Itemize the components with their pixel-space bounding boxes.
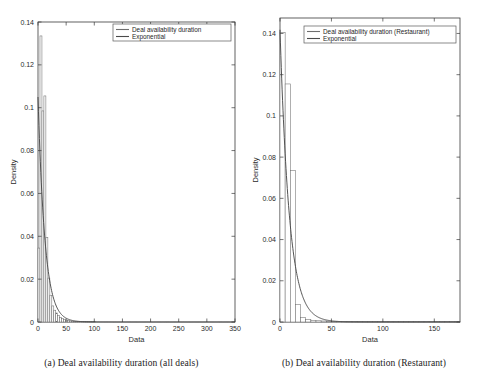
legend-label: Exponential — [132, 33, 165, 41]
plot-b-wrapper: 05010015000.020.040.060.080.10.120.14Dat… — [243, 0, 485, 355]
caption-b: (b) Deal availability duration (Restaura… — [243, 358, 485, 368]
chart-a: 05010015020025030035000.020.040.060.080.… — [0, 0, 243, 355]
y-tick-label: 0.02 — [262, 277, 276, 284]
histogram-bar — [73, 321, 75, 322]
caption-a: (a) Deal availability duration (all deal… — [0, 358, 243, 368]
x-tick-label: 100 — [88, 325, 100, 332]
y-tick-label: 0.14 — [262, 30, 276, 37]
y-tick-label: 0.04 — [20, 233, 34, 240]
x-tick-label: 0 — [278, 325, 282, 332]
plot-a-wrapper: 05010015020025030035000.020.040.060.080.… — [0, 0, 243, 355]
chart-b: 05010015000.020.040.060.080.10.120.14Dat… — [243, 0, 485, 355]
x-tick-label: 300 — [201, 325, 213, 332]
histogram-bar — [38, 248, 40, 322]
y-tick-label: 0.1 — [266, 112, 276, 119]
y-axis-title: Density — [251, 157, 260, 182]
legend: Deal availability duration (Restaurant)E… — [304, 26, 456, 43]
histogram-bar — [295, 304, 300, 322]
histogram-bar — [60, 317, 62, 322]
x-tick-label: 50 — [62, 325, 70, 332]
panel-b: 05010015000.020.040.060.080.10.120.14Dat… — [243, 0, 485, 392]
axis-frame — [38, 22, 235, 322]
y-tick-label: 0.06 — [262, 195, 276, 202]
histogram-bar — [56, 313, 58, 322]
histogram-bar — [71, 321, 73, 322]
y-tick-label: 0.06 — [20, 190, 34, 197]
histogram-bar — [326, 321, 331, 322]
histogram-series — [280, 32, 460, 322]
y-tick-label: 0 — [30, 319, 34, 326]
y-tick-label: 0.14 — [20, 19, 34, 26]
histogram-bar — [54, 310, 56, 322]
histogram-bar — [62, 319, 64, 322]
y-tick-label: 0 — [272, 319, 276, 326]
histogram-bar — [285, 84, 290, 322]
y-tick-label: 0.08 — [20, 147, 34, 154]
histogram-bar — [44, 96, 46, 322]
histogram-bar — [50, 295, 52, 322]
exponential-curve — [38, 97, 235, 322]
x-tick-label: 150 — [117, 325, 129, 332]
y-tick-label: 0.02 — [20, 276, 34, 283]
histogram-bar — [311, 320, 316, 322]
figure-container: 05010015020025030035000.020.040.060.080.… — [0, 0, 485, 392]
x-axis-title: Data — [362, 335, 379, 344]
x-tick-label: 200 — [145, 325, 157, 332]
histogram-bar — [306, 320, 311, 322]
y-tick-label: 0.04 — [262, 236, 276, 243]
histogram-bar — [316, 321, 321, 322]
histogram-bar — [280, 32, 285, 322]
histogram-bar — [52, 306, 54, 322]
y-tick-label: 0.12 — [262, 71, 276, 78]
histogram-bar — [301, 317, 306, 322]
exponential-curve — [280, 30, 460, 322]
y-axis-title: Density — [9, 159, 18, 184]
legend: Deal availability durationExponential — [113, 24, 231, 41]
x-tick-label: 250 — [173, 325, 185, 332]
x-axis-title: Data — [129, 335, 146, 344]
axis-frame — [280, 18, 460, 322]
panel-a: 05010015020025030035000.020.040.060.080.… — [0, 0, 243, 392]
x-tick-label: 100 — [377, 325, 389, 332]
histogram-bar — [64, 319, 66, 322]
histogram-bar — [321, 321, 326, 322]
x-tick-label: 50 — [328, 325, 336, 332]
histogram-series — [38, 36, 95, 322]
histogram-bar — [48, 278, 50, 322]
x-tick-label: 150 — [428, 325, 440, 332]
histogram-bar — [70, 321, 72, 322]
y-tick-label: 0.08 — [262, 154, 276, 161]
legend-label: Exponential — [323, 35, 356, 43]
histogram-bar — [68, 321, 70, 323]
x-tick-label: 0 — [36, 325, 40, 332]
histogram-bar — [58, 316, 60, 322]
x-tick-label: 350 — [229, 325, 241, 332]
y-tick-label: 0.12 — [20, 61, 34, 68]
y-tick-label: 0.1 — [24, 104, 34, 111]
